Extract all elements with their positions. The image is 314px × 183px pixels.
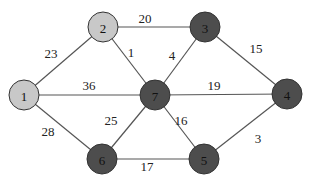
edge-weight-label: 36 [83,78,97,93]
node-3: 3 [190,12,220,42]
node-label: 3 [202,21,209,36]
edge-weight-label: 19 [208,78,221,93]
node-label: 4 [284,88,291,103]
edge-weight-label: 4 [169,48,176,63]
node-label: 6 [99,153,106,168]
node-label: 7 [152,89,159,104]
edge-weight-label: 16 [175,113,189,128]
edge-weight-label: 3 [255,131,262,146]
edge-7-4 [155,94,287,95]
edge-weight-label: 28 [42,124,55,139]
node-2: 2 [88,12,118,42]
node-4: 4 [272,79,302,109]
node-1: 1 [9,80,39,110]
node-5: 5 [189,144,219,174]
edge-weight-label: 23 [45,46,58,61]
edge-weight-label: 25 [105,113,118,128]
node-label: 5 [201,153,208,168]
node-label: 1 [21,89,28,104]
edge-weight-label: 15 [250,41,263,56]
node-label: 2 [100,21,107,36]
node-7: 7 [140,80,170,110]
nodes-group: 1234567 [9,12,302,174]
edge-weight-label: 20 [139,11,152,26]
graph-diagram: 233628201415192516173 1234567 [0,0,314,183]
node-6: 6 [87,144,117,174]
edge-weight-label: 17 [141,159,155,174]
edge-5-4 [204,94,287,159]
edge-weight-label: 1 [128,45,135,60]
